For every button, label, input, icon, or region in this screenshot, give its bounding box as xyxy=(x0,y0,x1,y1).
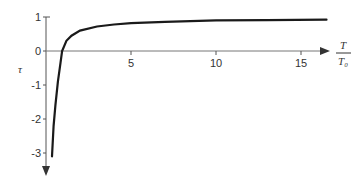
svg-text:T: T xyxy=(340,39,347,51)
svg-text:T₀: T₀ xyxy=(338,55,348,67)
y-axis-label: τ xyxy=(18,63,23,75)
x-axis-label: T T₀ xyxy=(336,39,351,67)
x-tick-label: 5 xyxy=(128,57,134,69)
x-axis: 51015 xyxy=(46,47,330,69)
y-tick-label: 1 xyxy=(35,11,41,23)
tau-curve xyxy=(52,20,327,157)
y-tick-label: 0 xyxy=(35,45,41,57)
y-tick-label: -1 xyxy=(31,79,41,91)
y-axis-arrow-icon xyxy=(42,166,50,176)
y-tick-label: -3 xyxy=(31,147,41,159)
x-axis-arrow-icon xyxy=(320,47,330,55)
y-axis: 10-1-2-3 xyxy=(31,11,50,176)
chart: 10-1-2-3 51015 T T₀ τ xyxy=(0,0,362,184)
x-tick-label: 15 xyxy=(295,57,307,69)
x-tick-label: 10 xyxy=(210,57,222,69)
y-tick-label: -2 xyxy=(31,113,41,125)
